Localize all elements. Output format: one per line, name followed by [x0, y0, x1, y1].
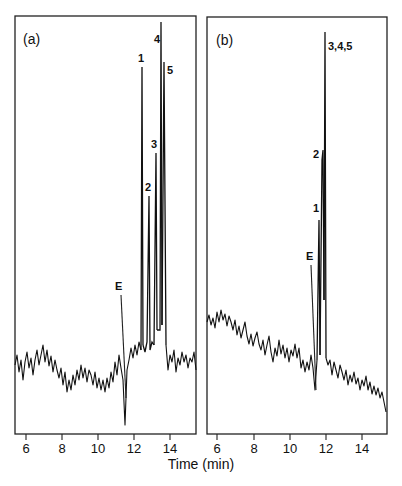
panel-a: (a) E 1 2 3 4 5 6 8 10 12 14 — [15, 16, 196, 456]
panel-b-peak-label-1: 1 — [313, 202, 319, 214]
panel-a-peak-2 — [143, 196, 154, 352]
panel-a-peak-5 — [162, 62, 166, 345]
panel-b-label: (b) — [216, 32, 233, 48]
panel-a-peak-label-e: E — [115, 280, 122, 292]
panel-a-peak-1 — [141, 67, 143, 350]
panel-a-tick-12: 12 — [127, 441, 141, 456]
panel-b: (b) E 1 2 3,4,5 6 8 10 12 14 — [207, 17, 387, 456]
panel-a-peak-4 — [157, 22, 162, 330]
chromatogram-figure: (a) E 1 2 3 4 5 6 8 10 12 14 — [0, 0, 402, 486]
panel-b-frame — [207, 17, 387, 434]
panel-a-tick-10: 10 — [91, 441, 105, 456]
panel-b-peak-2 — [320, 150, 324, 355]
panel-b-peak-label-345: 3,4,5 — [328, 40, 352, 52]
panel-b-tick-6: 6 — [213, 441, 220, 456]
panel-b-peak-345 — [324, 32, 326, 358]
panel-b-x-axis: 6 8 10 12 14 — [213, 434, 369, 456]
panel-b-tick-8: 8 — [250, 441, 257, 456]
panel-a-peak-3 — [154, 153, 157, 345]
panel-a-baseline-trace — [15, 342, 141, 425]
panel-a-peak-label-1: 1 — [138, 52, 144, 64]
panel-a-peak-label-5: 5 — [167, 64, 173, 76]
panel-b-baseline-trace — [207, 310, 317, 390]
panel-a-peak-label-3: 3 — [151, 138, 157, 150]
panel-a-peak-label-2: 2 — [145, 181, 151, 193]
panel-a-frame — [15, 16, 196, 434]
panel-a-baseline-trace-right — [166, 345, 196, 372]
panel-b-tick-14: 14 — [355, 441, 369, 456]
panel-b-tick-12: 12 — [319, 441, 333, 456]
x-axis-label: Time (min) — [0, 456, 402, 472]
panel-a-tick-14: 14 — [163, 441, 177, 456]
panel-b-peak-label-e: E — [306, 250, 313, 262]
panel-b-baseline-trace-right — [326, 358, 386, 412]
panel-a-tick-8: 8 — [58, 441, 65, 456]
panel-a-tick-6: 6 — [22, 441, 29, 456]
panel-b-tick-10: 10 — [283, 441, 297, 456]
panel-a-peak-label-4: 4 — [154, 33, 161, 45]
panel-a-label: (a) — [23, 31, 40, 47]
panel-b-peak-label-2: 2 — [313, 148, 319, 160]
panel-a-x-axis: 6 8 10 12 14 — [22, 434, 177, 456]
